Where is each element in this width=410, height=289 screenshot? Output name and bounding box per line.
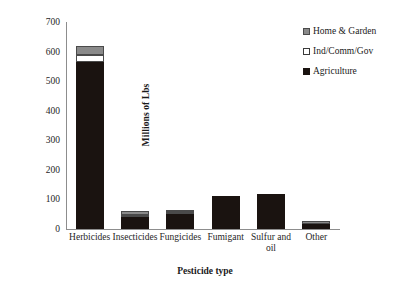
y-tick-label: 400 <box>46 106 66 116</box>
plot-area: 7006005004003002001000 <box>66 22 338 229</box>
x-axis-title-label: Pesticide type <box>177 266 233 276</box>
x-tick-label: Fumigant <box>203 232 248 254</box>
gray-square-swatch <box>303 28 310 35</box>
bar-segment-agriculture[interactable] <box>257 194 285 229</box>
x-tick-label: Insecticides <box>112 232 157 254</box>
bar-stack[interactable] <box>121 211 149 229</box>
legend-item-label: Home & Garden <box>313 26 376 36</box>
y-tick-label: 0 <box>55 224 66 234</box>
x-axis-title: Pesticide type <box>0 266 410 276</box>
x-tick-label: Fungicides <box>158 232 203 254</box>
y-tick-label: 500 <box>46 76 66 86</box>
x-tick-label: Sulfur and oil <box>248 232 293 254</box>
legend-item[interactable]: Home & Garden <box>303 26 376 36</box>
bar-slot <box>248 22 293 229</box>
bar-slot <box>67 22 112 229</box>
x-axis-line <box>66 229 340 230</box>
bar-stack[interactable] <box>212 196 240 229</box>
x-tick-label: Other <box>294 232 339 254</box>
bar-stack[interactable] <box>76 46 104 229</box>
x-tick-label: Herbicides <box>67 232 112 254</box>
bar-segment-agriculture[interactable] <box>121 217 149 229</box>
legend-item-label: Ind/Comm/Gov <box>313 46 373 56</box>
bar-stack[interactable] <box>257 194 285 229</box>
bar-segment-home-garden[interactable] <box>76 46 104 55</box>
bar-segment-agriculture[interactable] <box>166 214 194 229</box>
y-tick-label: 700 <box>46 17 66 27</box>
y-tick-label: 200 <box>46 165 66 175</box>
bar-slot <box>112 22 157 229</box>
black-square-swatch <box>303 68 310 75</box>
chart-legend: Home & GardenInd/Comm/GovAgriculture <box>303 26 376 76</box>
bar-stack[interactable] <box>302 221 330 229</box>
legend-item-label: Agriculture <box>313 66 357 76</box>
bar-stack[interactable] <box>166 210 194 229</box>
bar-segment-indcommgov[interactable] <box>76 55 104 62</box>
x-tick-label-group: HerbicidesInsecticidesFungicidesFumigant… <box>67 232 339 254</box>
y-tick-label: 300 <box>46 135 66 145</box>
legend-item[interactable]: Ind/Comm/Gov <box>303 46 376 56</box>
white-square-swatch <box>303 48 310 55</box>
y-tick-label: 100 <box>46 194 66 204</box>
legend-item[interactable]: Agriculture <box>303 66 376 76</box>
bar-slot <box>158 22 203 229</box>
bar-segment-agriculture[interactable] <box>76 62 104 229</box>
bars-layer <box>67 22 339 229</box>
bar-segment-agriculture[interactable] <box>302 224 330 229</box>
stacked-bar-chart: Millions of Lbs 7006005004003002001000 H… <box>0 0 410 289</box>
bar-slot <box>203 22 248 229</box>
y-tick-label: 600 <box>46 47 66 57</box>
bar-segment-agriculture[interactable] <box>212 196 240 229</box>
